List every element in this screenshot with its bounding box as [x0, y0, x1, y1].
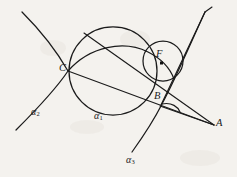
circle-alpha1	[69, 27, 157, 115]
point-F-dot	[160, 62, 163, 65]
curve-label-alpha2-base: α	[31, 106, 36, 117]
point-label-B: B	[154, 91, 160, 102]
curve-label-alpha3: α3	[126, 155, 135, 166]
curve-label-alpha3-base: α	[126, 154, 131, 165]
curve-label-alpha1: α1	[94, 111, 103, 122]
curve-alpha3	[132, 12, 205, 152]
curve-label-alpha2-sub: 2	[37, 110, 40, 117]
line-topvertex-extension	[205, 7, 212, 12]
curve-label-alpha2: α2	[31, 107, 40, 118]
point-label-F: F	[156, 49, 162, 60]
curve-label-alpha1-base: α	[94, 110, 99, 121]
geometry-figure: C B F A α1 α2 α3	[0, 0, 237, 177]
figure-canvas	[0, 0, 237, 177]
line-topvertex-to-B	[161, 12, 205, 105]
curve-label-alpha1-sub: 1	[100, 114, 103, 121]
point-label-C: C	[59, 63, 66, 74]
curve-label-alpha3-sub: 3	[132, 158, 135, 165]
point-label-A: A	[216, 118, 222, 129]
line-B-A	[160, 106, 214, 125]
